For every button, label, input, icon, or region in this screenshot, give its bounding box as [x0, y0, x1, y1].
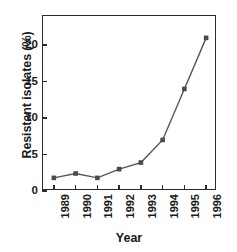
x-axis-tick-label: 1993	[146, 194, 158, 234]
data-point-marker	[182, 87, 187, 92]
line-series	[43, 16, 217, 191]
x-axis-title: Year	[42, 231, 216, 245]
data-point-marker	[204, 36, 209, 41]
x-axis-tick-label: 1990	[81, 194, 93, 234]
x-axis-tick-label: 1995	[189, 194, 201, 234]
x-axis-tick-label: 1992	[124, 194, 136, 234]
x-axis-tick-label: 1994	[168, 194, 180, 234]
x-axis-tick-label: 1989	[59, 194, 71, 234]
data-point-marker	[95, 176, 100, 181]
y-axis-tick	[42, 81, 47, 83]
series-line	[54, 38, 206, 178]
data-point-marker	[73, 171, 78, 176]
y-axis-tick-label: 15	[14, 76, 38, 86]
y-axis-tick-labels: 05101520	[14, 0, 38, 252]
y-axis-tick	[42, 117, 47, 119]
y-axis-tick	[42, 44, 47, 46]
data-point-marker	[139, 160, 144, 165]
y-axis-tick-label: 20	[14, 39, 38, 49]
data-point-marker	[160, 138, 165, 143]
y-axis-tick-label: 5	[14, 149, 38, 159]
y-axis-tick	[42, 154, 47, 156]
x-axis-tick-label: 1991	[102, 194, 114, 234]
y-axis-tick-label: 0	[14, 185, 38, 195]
y-axis-tick-label: 10	[14, 112, 38, 122]
data-point-marker	[117, 167, 122, 172]
plot-area	[42, 15, 216, 190]
x-axis-tick-labels: 19891990199119921993199419951996	[42, 190, 216, 230]
x-axis-tick-label: 1996	[211, 194, 223, 234]
chart-figure: Resistant isolates (%) 05101520 19891990…	[0, 0, 237, 252]
data-point-marker	[52, 176, 57, 181]
